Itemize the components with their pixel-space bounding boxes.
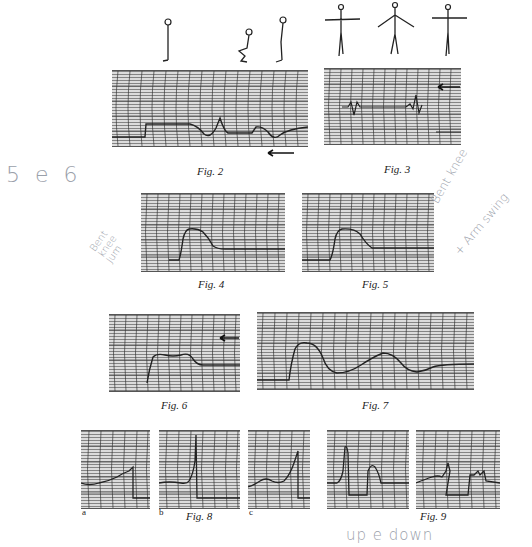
figure-caption-fig7: Fig. 7 — [362, 399, 388, 411]
figure-caption-fig5: Fig. 5 — [362, 278, 388, 290]
sublabel-b: b — [159, 507, 164, 517]
chart-recording-fig3 — [324, 68, 461, 145]
handwritten-note-fig4: Bent knee Jum — [88, 215, 136, 265]
chart-recording-fig8c — [248, 430, 310, 509]
trace-line — [416, 463, 500, 495]
figure-caption-fig2: Fig. 2 — [197, 165, 223, 177]
figure-caption-fig4: Fig. 4 — [198, 278, 224, 290]
stick-figure-arms-out — [430, 2, 470, 60]
stick-figure-standing — [272, 14, 292, 64]
arrow-left-icon — [438, 84, 460, 90]
trace-line — [169, 229, 285, 260]
trace-line — [302, 229, 434, 260]
figure-caption-fig3: Fig. 3 — [384, 163, 410, 175]
trace-line — [147, 354, 240, 383]
stick-figure-arms-out — [323, 2, 363, 60]
chart-recording-fig6 — [109, 314, 240, 392]
trace-line — [327, 447, 409, 495]
chart-recording-fig9-right — [416, 430, 500, 509]
arrow-left-icon — [264, 148, 296, 158]
handwritten-note-margin: 5 e 6 — [6, 162, 82, 187]
arrow-left-icon — [220, 335, 239, 341]
figure-caption-fig9: Fig. 9 — [420, 510, 446, 522]
stick-figure-squatting — [235, 26, 257, 66]
figure-caption-fig8: Fig. 8 — [186, 510, 212, 522]
chart-recording-fig8a — [81, 430, 150, 509]
handwritten-note-fig9: up e down — [346, 526, 433, 544]
chart-recording-fig2 — [112, 70, 308, 147]
stick-figure-standing — [158, 14, 178, 64]
chart-recording-fig5 — [302, 193, 434, 272]
chart-recording-fig7 — [257, 312, 474, 390]
chart-recording-fig8b — [159, 430, 240, 509]
chart-recording-fig4 — [141, 193, 285, 272]
trace-line — [342, 95, 422, 115]
sublabel-c: c — [249, 507, 253, 517]
handwritten-note-fig5-line2: + Arm swing — [451, 190, 511, 258]
trace-line — [112, 118, 308, 137]
trace-line — [159, 435, 240, 498]
handwritten-note-fig5-line1: Bent knee — [428, 146, 470, 206]
sublabel-a: a — [82, 507, 86, 517]
figure-caption-fig6: Fig. 6 — [161, 399, 187, 411]
stick-figure-arms-raised — [375, 0, 417, 58]
chart-recording-fig9-left — [327, 430, 409, 509]
